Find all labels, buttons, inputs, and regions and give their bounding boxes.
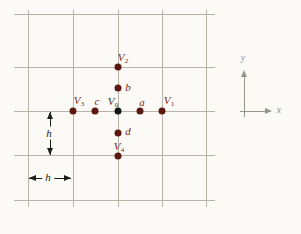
y-axis-label: y	[241, 53, 245, 63]
point-V0	[115, 108, 122, 115]
point-d	[115, 130, 122, 137]
label-a: a	[139, 97, 145, 108]
label-V1: V1	[164, 95, 175, 108]
point-V4	[115, 153, 122, 160]
label-V2: V2	[118, 52, 129, 65]
grid-horizontal-line	[14, 200, 215, 201]
grid-spacing-vertical-arrowhead-down-icon	[47, 148, 53, 155]
stencil-figure: hh V2bV3cV0aV1dV4 xy	[0, 0, 301, 234]
x-axis-arrowhead-icon	[265, 108, 272, 114]
grid-horizontal-line	[14, 14, 215, 15]
point-V3	[70, 108, 77, 115]
label-c: c	[95, 96, 100, 107]
label-V0: V0	[108, 96, 119, 109]
label-b: b	[125, 82, 131, 93]
y-axis-arrowhead-icon	[241, 70, 247, 77]
y-axis-line	[244, 74, 245, 117]
point-c	[92, 108, 99, 115]
label-V3: V3	[74, 95, 85, 108]
point-b	[115, 85, 122, 92]
grid-spacing-horizontal-arrowhead-left-icon	[29, 175, 36, 181]
point-V1	[159, 108, 166, 115]
grid-vertical-line	[206, 10, 207, 207]
grid-spacing-vertical-arrowhead-up-icon	[47, 112, 53, 119]
grid-spacing-vertical-label: h	[43, 127, 55, 140]
point-V2	[115, 64, 122, 71]
grid-spacing-horizontal-label: h	[42, 171, 54, 184]
point-a	[137, 108, 144, 115]
label-V4: V4	[114, 141, 125, 154]
x-axis-label: x	[277, 105, 281, 115]
grid-spacing-horizontal-arrowhead-right-icon	[64, 175, 71, 181]
label-d: d	[125, 126, 131, 137]
